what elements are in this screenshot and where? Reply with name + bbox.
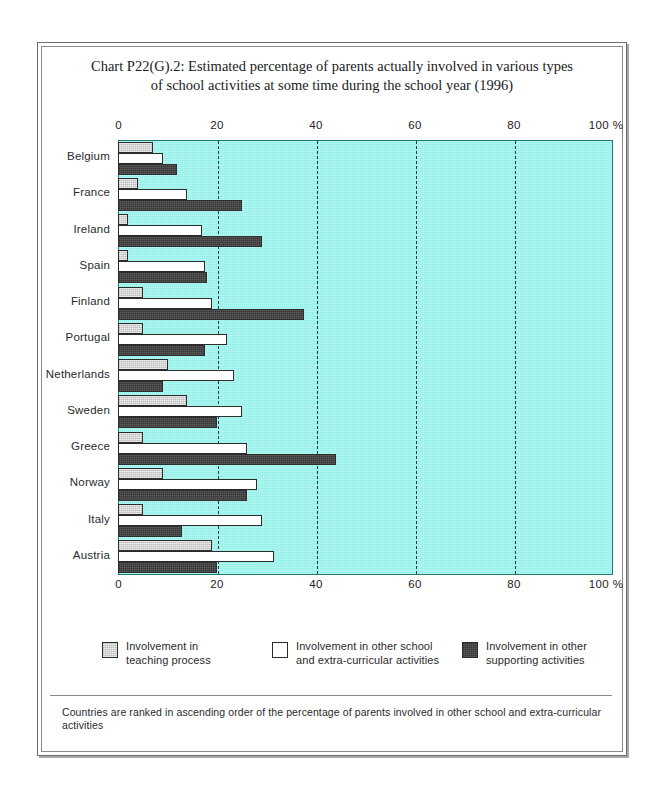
bar-group [118, 394, 613, 430]
x-axis-tick-label: 20 [210, 119, 224, 131]
bar [118, 200, 242, 211]
x-axis-tick-label: 80 [507, 119, 521, 131]
bar [118, 468, 163, 479]
bar-group [118, 503, 613, 539]
x-axis-tick-label: 40 [309, 119, 323, 131]
chart-title-line-2: of school activities at some time during… [54, 76, 610, 95]
bar [118, 189, 187, 200]
bar-group [118, 249, 613, 285]
x-axis-tick-label: 40 [309, 578, 323, 590]
chart-title: Chart P22(G).2: Estimated percentage of … [54, 57, 610, 95]
bar [118, 345, 205, 356]
legend-label: Involvement in other supporting activiti… [486, 640, 587, 667]
bar-group [118, 176, 613, 212]
bar [118, 454, 336, 465]
chart-figure: Chart P22(G).2: Estimated percentage of … [38, 43, 626, 755]
bar-group [118, 430, 613, 466]
legend-item: Involvement in other school and extra-cu… [272, 640, 439, 667]
bar-group [118, 539, 613, 575]
bar-group [118, 213, 613, 249]
bar [118, 406, 242, 417]
bar [118, 261, 205, 272]
bar [118, 250, 128, 261]
bar [118, 214, 128, 225]
bar [118, 298, 212, 309]
country-label-belgium: Belgium [67, 150, 110, 162]
legend-label: Involvement in teaching process [126, 640, 211, 667]
legend-swatch [272, 642, 288, 658]
bar [118, 515, 262, 526]
bar [118, 178, 138, 189]
chart-legend: Involvement in teaching processInvolveme… [102, 640, 612, 684]
chart-page-frame: Chart P22(G).2: Estimated percentage of … [37, 42, 627, 756]
footnote-divider [50, 695, 612, 696]
bar [118, 359, 168, 370]
bar [118, 417, 217, 428]
x-axis-labels-top: 020406080100 % [118, 119, 613, 135]
bar [118, 443, 247, 454]
x-axis-tick-label: 60 [408, 578, 422, 590]
bar [118, 490, 247, 501]
country-label-netherlands: Netherlands [46, 368, 110, 380]
bar [118, 540, 212, 551]
bar [118, 287, 143, 298]
x-axis-tick-label: 100 % [589, 119, 624, 131]
legend-label: Involvement in other school and extra-cu… [296, 640, 439, 667]
bar-group [118, 321, 613, 357]
bar [118, 164, 177, 175]
bar-group [118, 285, 613, 321]
country-label-ireland: Ireland [73, 223, 110, 235]
y-axis-country-labels: BelgiumFranceIrelandSpainFinlandPortugal… [38, 140, 114, 575]
country-label-austria: Austria [73, 549, 110, 561]
x-axis-tick-label: 20 [210, 578, 224, 590]
bar [118, 142, 153, 153]
country-label-portugal: Portugal [66, 331, 110, 343]
bar-group [118, 140, 613, 176]
country-label-france: France [73, 186, 110, 198]
bar-groups [118, 140, 613, 575]
bar [118, 272, 207, 283]
legend-item: Involvement in other supporting activiti… [462, 640, 587, 667]
x-axis-tick-label: 80 [507, 578, 521, 590]
bar [118, 526, 182, 537]
country-label-norway: Norway [70, 476, 110, 488]
country-label-spain: Spain [80, 259, 110, 271]
country-label-sweden: Sweden [67, 404, 110, 416]
bar [118, 309, 304, 320]
bar [118, 551, 274, 562]
x-axis-labels-bottom: 020406080100 % [118, 578, 613, 594]
bar [118, 395, 187, 406]
bar [118, 334, 227, 345]
bar [118, 225, 202, 236]
chart-title-line-1: Chart P22(G).2: Estimated percentage of … [54, 57, 610, 76]
bar [118, 432, 143, 443]
bar [118, 562, 217, 573]
bar-group [118, 358, 613, 394]
legend-swatch [462, 642, 478, 658]
x-axis-tick-label: 0 [115, 119, 122, 131]
bar-group [118, 466, 613, 502]
bar [118, 479, 257, 490]
x-axis-tick-label: 100 % [589, 578, 624, 590]
x-axis-tick-label: 0 [115, 578, 122, 590]
x-axis-tick-label: 60 [408, 119, 422, 131]
country-label-greece: Greece [71, 440, 110, 452]
bar [118, 370, 234, 381]
country-label-italy: Italy [88, 513, 110, 525]
chart-footnote: Countries are ranked in ascending order … [62, 706, 602, 732]
bar [118, 323, 143, 334]
bar [118, 381, 163, 392]
legend-swatch [102, 642, 118, 658]
legend-item: Involvement in teaching process [102, 640, 211, 667]
country-label-finland: Finland [71, 295, 110, 307]
bar [118, 504, 143, 515]
bar [118, 153, 163, 164]
bar [118, 236, 262, 247]
